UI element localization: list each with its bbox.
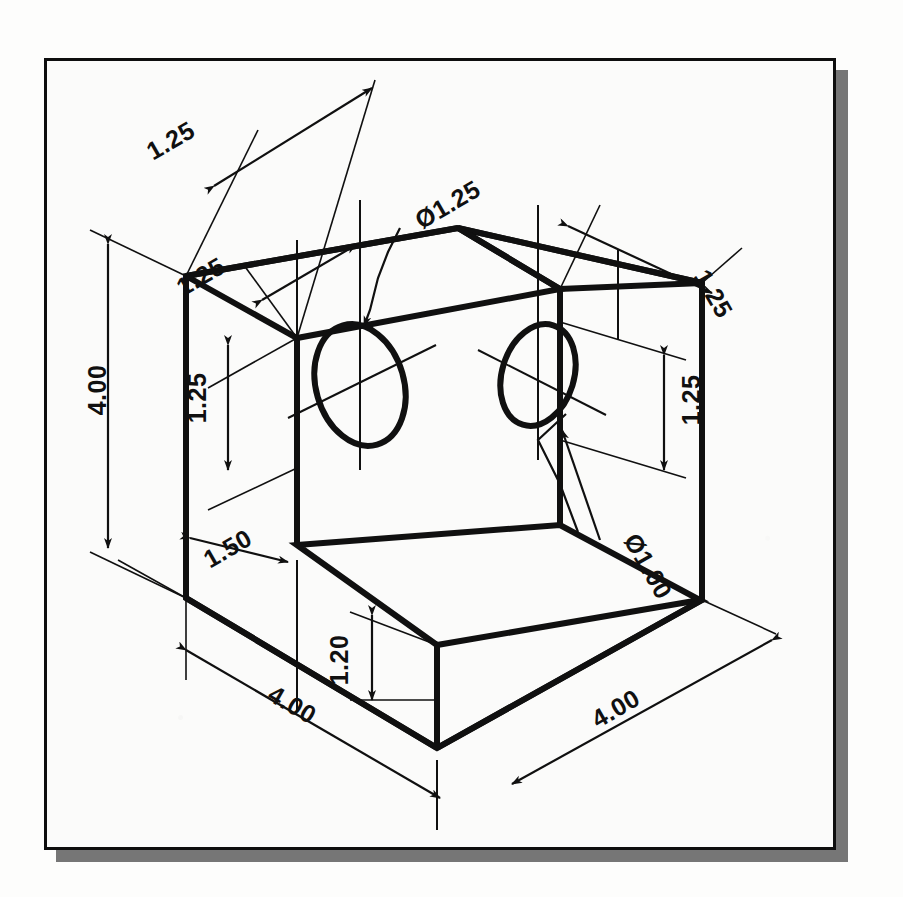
top-left-outer-edge xyxy=(186,228,458,276)
dim-label-floor-thickness: 1.20 xyxy=(325,635,353,686)
dim-bottom-left-thickness-ext xyxy=(118,560,186,598)
dim-bottom-depth-ext-right xyxy=(702,600,776,634)
left-hole-axis-centerline xyxy=(288,345,436,418)
dim-left-height-ext-top xyxy=(90,230,186,276)
isometric-drawing-svg: 1.25 1.25 4.00 1.25 Ø1.25 1.25 1.25 Ø1.0… xyxy=(0,0,903,897)
dim-label-bottom-left-wall-thickness: 1.50 xyxy=(199,523,257,573)
dim-label-bottom-left-overall-width: 4.00 xyxy=(264,679,322,729)
dim-label-hole-left-diameter: Ø1.25 xyxy=(410,174,485,234)
dim-top-left-thickness-ext2 xyxy=(297,80,375,338)
dim-top-left-offset-ext xyxy=(246,268,297,338)
drawing-canvas: 1.25 1.25 4.00 1.25 Ø1.25 1.25 1.25 Ø1.0… xyxy=(0,0,903,897)
dim-label-hole-right-diameter: Ø1.00 xyxy=(619,529,679,604)
right-hole-axis-centerline xyxy=(478,350,606,415)
dimension-lines xyxy=(90,80,776,798)
dim-label-top-left-wall-thickness: 1.25 xyxy=(142,115,200,165)
dim-left-height-ext-bot xyxy=(90,552,186,598)
dim-label-right-top-wall-thickness: 1.25 xyxy=(689,265,739,323)
outer-silhouette xyxy=(186,228,702,748)
dimension-labels: 1.25 1.25 4.00 1.25 Ø1.25 1.25 1.25 Ø1.0… xyxy=(83,115,739,733)
dim-left-hole-ext-top xyxy=(208,338,297,388)
drawing-page: 1.25 1.25 4.00 1.25 Ø1.25 1.25 1.25 Ø1.0… xyxy=(0,0,903,897)
centerlines xyxy=(288,200,618,830)
dim-bottom-depth-line xyxy=(512,640,772,784)
dim-top-left-thickness-ext1 xyxy=(186,130,258,276)
dim-label-left-hole-center-height: 1.25 xyxy=(183,373,211,424)
dim-left-hole-ext-bot xyxy=(208,468,297,510)
part-geometry xyxy=(186,228,702,748)
dim-label-right-hole-center-height: 1.25 xyxy=(677,375,705,426)
dim-right-hole-ext-top xyxy=(560,322,686,360)
dim-label-left-overall-height: 4.00 xyxy=(83,365,111,416)
dim-right-hole-ext-bot xyxy=(560,440,686,478)
dim-top-left-thickness-line xyxy=(214,88,372,186)
top-right-outer-edge xyxy=(458,228,702,283)
dim-right-thickness-ext1 xyxy=(560,205,600,289)
